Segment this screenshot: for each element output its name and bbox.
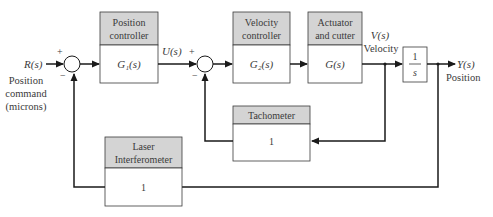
sum1-minus-sign: − bbox=[60, 70, 66, 81]
sum1-plus-sign: + bbox=[57, 46, 63, 57]
velocity-controller-header-2: controller bbox=[242, 30, 282, 41]
integrator-denominator: s bbox=[413, 67, 417, 78]
input-desc-1: Position bbox=[9, 75, 44, 86]
sum2-plus-sign: + bbox=[189, 46, 195, 57]
position-controller-block: Position controller G₁(s) bbox=[100, 12, 158, 83]
tachometer-gain: 1 bbox=[269, 136, 274, 147]
laser-to-sum1-line bbox=[74, 74, 105, 187]
sum2-minus-sign: − bbox=[192, 70, 198, 81]
actuator-header-2: and cutter bbox=[315, 30, 355, 41]
laser-header-2: Interferometer bbox=[115, 154, 173, 165]
velocity-controller-block: Velocity controller G₂(s) bbox=[233, 12, 290, 83]
block-diagram: R(s) Position command (microns) + − Posi… bbox=[0, 0, 493, 217]
position-controller-header-2: controller bbox=[110, 30, 150, 41]
laser-header-1: Laser bbox=[132, 141, 155, 152]
velocity-label: Velocity bbox=[364, 43, 400, 54]
tachometer-header: Tachometer bbox=[248, 110, 296, 121]
output-signal-label: Y(s) bbox=[457, 58, 475, 71]
v-signal-label: V(s) bbox=[371, 29, 390, 42]
g2-transfer-function: G₂(s) bbox=[250, 58, 274, 71]
integrator-numerator: 1 bbox=[413, 51, 418, 62]
g1-transfer-function: G₁(s) bbox=[117, 58, 141, 71]
input-signal-label: R(s) bbox=[23, 58, 43, 71]
actuator-block: Actuator and cutter G(s) bbox=[308, 12, 362, 83]
laser-interferometer-block: Laser Interferometer 1 bbox=[105, 137, 182, 206]
input-desc-3: (microns) bbox=[6, 101, 47, 113]
tachometer-to-sum2-line bbox=[205, 74, 233, 141]
summing-junction-2 bbox=[197, 56, 213, 72]
output-desc: Position bbox=[446, 72, 481, 83]
input-desc-2: command bbox=[5, 88, 47, 99]
position-controller-header-1: Position bbox=[113, 17, 146, 28]
tachometer-block: Tachometer 1 bbox=[233, 106, 310, 161]
integrator-block: 1 s bbox=[403, 47, 427, 82]
summing-junction-1 bbox=[64, 56, 80, 72]
velocity-controller-header-1: Velocity bbox=[245, 17, 278, 28]
laser-gain: 1 bbox=[141, 182, 146, 193]
u-signal-label: U(s) bbox=[162, 45, 182, 58]
actuator-header-1: Actuator bbox=[318, 17, 354, 28]
g-transfer-function: G(s) bbox=[325, 58, 345, 71]
